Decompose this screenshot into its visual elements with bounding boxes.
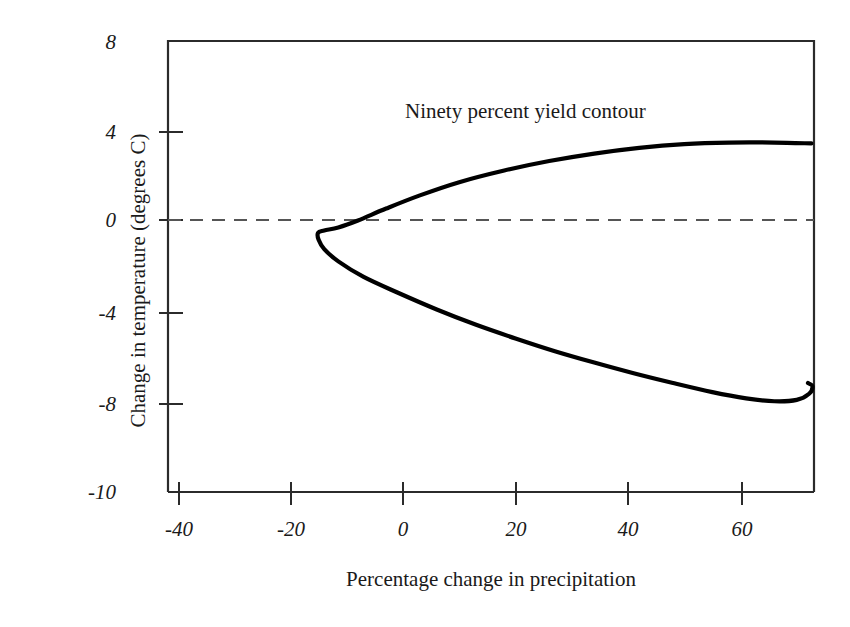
y-tick-label-m8: -8 bbox=[60, 392, 116, 417]
yield-contour-curve bbox=[318, 142, 813, 401]
y-tick-label-4: 4 bbox=[60, 120, 116, 145]
contour-annotation-label: Ninety percent yield contour bbox=[405, 99, 646, 124]
y-tick-label-m4: -4 bbox=[60, 301, 116, 326]
y-tick-label-0: 0 bbox=[60, 208, 116, 233]
y-axis-ticks bbox=[159, 132, 183, 404]
x-tick-label-60: 60 bbox=[732, 517, 753, 542]
x-axis-title: Percentage change in precipitation bbox=[168, 567, 814, 592]
y-tick-label-m10: -10 bbox=[48, 480, 116, 505]
x-tick-label-20: 20 bbox=[506, 517, 527, 542]
chart-page: 8 4 0 -4 -8 -10 -40 -20 0 20 40 60 Chang… bbox=[0, 0, 850, 627]
y-axis-title: Change in temperature (degrees C) bbox=[126, 51, 151, 511]
x-tick-label-m20: -20 bbox=[277, 517, 305, 542]
x-tick-label-0: 0 bbox=[398, 517, 409, 542]
x-tick-label-40: 40 bbox=[618, 517, 639, 542]
x-tick-label-m40: -40 bbox=[165, 517, 193, 542]
x-axis-ticks bbox=[179, 482, 742, 505]
y-tick-label-8: 8 bbox=[60, 30, 116, 55]
